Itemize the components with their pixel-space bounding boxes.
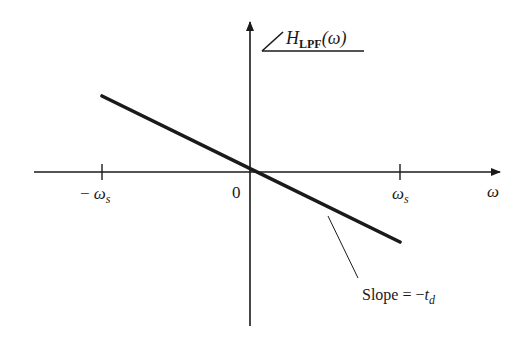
x-axis-label: ω	[487, 183, 499, 200]
title-arg: (ω)	[322, 28, 347, 48]
title-func-sub: LPF	[299, 37, 322, 51]
phase-line	[102, 96, 400, 242]
title-func: H	[286, 28, 299, 48]
tick-label-neg-ws: − ωs	[80, 185, 111, 205]
tick-label-pos-ws: ωs	[392, 185, 409, 205]
origin-label: 0	[232, 184, 241, 201]
slope-annotation: Slope = −td	[362, 287, 435, 306]
plot-title: HLPF(ω)	[286, 29, 346, 50]
phase-plot	[0, 0, 526, 345]
angle-symbol	[262, 32, 283, 51]
slope-leader-line	[328, 216, 358, 278]
